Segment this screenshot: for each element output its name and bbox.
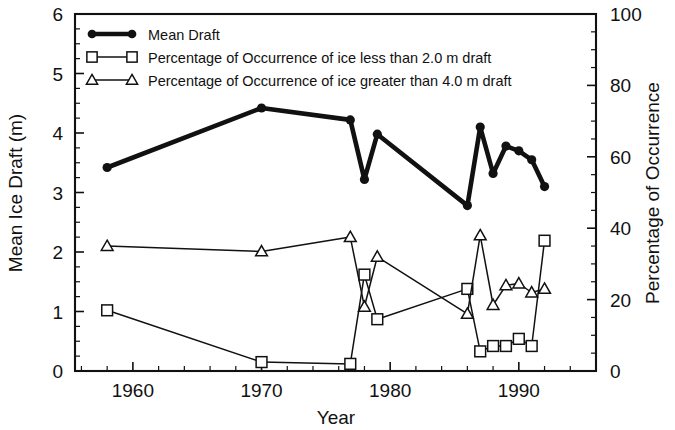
marker-filled-circle: [527, 155, 536, 164]
y-axis-title: Mean Ice Draft (m): [5, 114, 26, 272]
marker-filled-circle: [103, 163, 112, 172]
series-line: [107, 235, 544, 314]
y-tick-label: 2: [52, 242, 63, 263]
y-tick-label: 5: [52, 64, 63, 85]
series-1: [103, 103, 550, 210]
marker-filled-circle: [463, 201, 472, 210]
marker-open-square: [256, 357, 267, 368]
axis-major-ticks: [75, 14, 596, 371]
y2-tick-label: 40: [610, 218, 631, 239]
y2-axis-title: Percentage of Occurrence: [642, 82, 663, 304]
marker-open-square: [102, 305, 113, 316]
marker-filled-circle: [360, 175, 369, 184]
x-tick-label: 1970: [240, 380, 282, 401]
marker-open-square: [345, 358, 356, 369]
y-tick-label: 4: [52, 123, 63, 144]
marker-filled-circle: [128, 30, 137, 39]
marker-filled-circle: [346, 115, 355, 124]
marker-open-triangle: [101, 240, 113, 250]
marker-open-triangle: [539, 283, 551, 293]
y2-tick-label: 20: [610, 290, 631, 311]
y2-tick-label: 0: [610, 361, 621, 382]
marker-open-square: [372, 314, 383, 325]
y2-tick-label: 100: [610, 4, 642, 25]
legend-entry-2: Percentage of Occurrence of ice less tha…: [87, 50, 491, 66]
x-tick-label: 1980: [369, 380, 411, 401]
marker-filled-circle: [88, 30, 97, 39]
marker-filled-circle: [501, 141, 510, 150]
marker-filled-circle: [373, 130, 382, 139]
marker-filled-circle: [257, 103, 266, 112]
y-tick-label: 0: [52, 361, 63, 382]
marker-open-square: [526, 341, 537, 352]
marker-filled-circle: [540, 182, 549, 191]
x-axis-title: Year: [317, 407, 356, 428]
x-tick-label: 1990: [498, 380, 540, 401]
chart-legend: Mean DraftPercentage of Occurrence of ic…: [86, 27, 511, 89]
marker-open-triangle: [474, 229, 486, 239]
legend-label: Percentage of Occurrence of ice greater …: [148, 73, 512, 89]
y-tick-label: 3: [52, 183, 63, 204]
plot-frame: [75, 14, 596, 371]
marker-open-triangle: [487, 299, 499, 309]
y2-tick-label: 80: [610, 75, 631, 96]
marker-open-square: [513, 333, 524, 344]
marker-filled-circle: [476, 122, 485, 131]
marker-open-square: [127, 52, 137, 62]
marker-filled-circle: [488, 169, 497, 178]
legend-label: Mean Draft: [148, 27, 220, 43]
legend-entry-1: Mean Draft: [88, 27, 220, 43]
series-line: [107, 108, 544, 206]
y-axis-tick-labels: 0123456: [52, 4, 63, 382]
legend-label: Percentage of Occurrence of ice less tha…: [148, 50, 491, 66]
y2-axis-tick-labels: 020406080100: [610, 4, 642, 382]
legend-entry-3: Percentage of Occurrence of ice greater …: [86, 73, 511, 89]
marker-open-square: [488, 341, 499, 352]
marker-open-square: [475, 346, 486, 357]
marker-open-square: [539, 235, 550, 246]
x-axis-tick-labels: 1960197019801990: [112, 380, 540, 401]
series-2: [102, 235, 550, 369]
marker-open-square: [501, 341, 512, 352]
chart-figure: 1960197019801990 0123456 020406080100 Ye…: [0, 0, 675, 430]
marker-filled-circle: [514, 146, 523, 155]
y-tick-label: 6: [52, 4, 63, 25]
y-tick-label: 1: [52, 302, 63, 323]
marker-open-triangle: [344, 231, 356, 241]
data-series-layer: [101, 103, 550, 369]
series-3: [101, 229, 550, 318]
x-tick-label: 1960: [112, 380, 154, 401]
ice-draft-line-chart: 1960197019801990 0123456 020406080100 Ye…: [0, 0, 675, 430]
marker-open-square: [359, 269, 370, 280]
marker-open-triangle: [513, 278, 525, 288]
marker-open-square: [87, 52, 97, 62]
y2-tick-label: 60: [610, 147, 631, 168]
marker-open-triangle: [371, 251, 383, 261]
